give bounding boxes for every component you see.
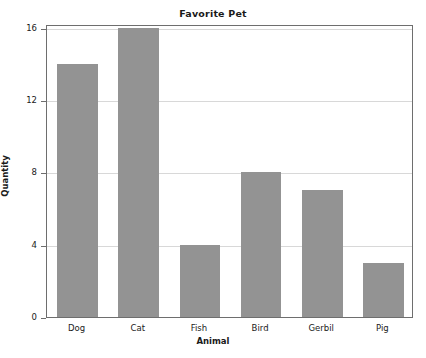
y-axis: Quantity 0481216	[0, 25, 46, 318]
x-tick-label: Cat	[107, 323, 168, 333]
bar	[363, 263, 404, 317]
x-tick-label: Pig	[352, 323, 413, 333]
x-tick-label: Bird	[230, 323, 291, 333]
x-tick-label: Dog	[46, 323, 107, 333]
y-tick-label: 12	[26, 95, 37, 105]
chart-title: Favorite Pet	[0, 8, 426, 19]
bar	[180, 245, 221, 317]
plot-area	[46, 25, 413, 318]
bar	[57, 64, 98, 317]
y-tick-label: 0	[32, 312, 37, 322]
y-tick-label: 16	[26, 23, 37, 33]
y-tick-label: 8	[32, 167, 37, 177]
y-tick-label: 4	[32, 240, 37, 250]
bar	[241, 172, 282, 317]
x-axis-title: Animal	[0, 336, 426, 346]
x-tick-label: Gerbil	[291, 323, 352, 333]
bar-chart: Favorite Pet Quantity 0481216 DogCatFish…	[0, 0, 426, 358]
bars-layer	[47, 26, 412, 317]
bar	[118, 28, 159, 317]
x-tick-label: Fish	[168, 323, 229, 333]
y-axis-title: Quantity	[0, 155, 10, 197]
bar	[302, 190, 343, 317]
